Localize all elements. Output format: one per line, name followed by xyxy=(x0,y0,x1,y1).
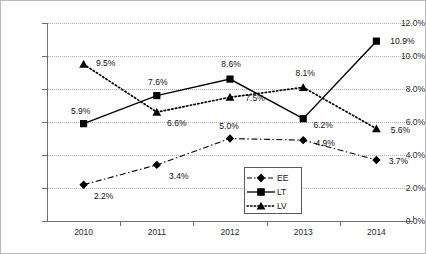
y-tick-mark xyxy=(42,188,47,189)
x-axis-end-cap xyxy=(47,216,48,221)
y-tick-mark xyxy=(42,122,47,123)
data-label-lt-2012: 8.6% xyxy=(221,59,240,69)
y-tick-label: 8.0% xyxy=(381,84,425,94)
gridline xyxy=(47,89,413,90)
data-label-lt-2010: 5.9% xyxy=(71,106,90,116)
legend-item-ee[interactable]: EE xyxy=(245,171,301,185)
data-label-ee-2012: 5.0% xyxy=(219,121,238,131)
legend-swatch-ee xyxy=(245,171,277,185)
data-label-lt-2011: 7.6% xyxy=(148,77,167,87)
gridline xyxy=(47,188,413,189)
data-label-lt-2014: 10.9% xyxy=(390,36,414,46)
y-tick-mark xyxy=(42,56,47,57)
x-tick-mark xyxy=(340,221,341,226)
x-tick-mark xyxy=(193,221,194,226)
y-tick-label: 0.0% xyxy=(381,216,425,226)
data-label-ee-2011: 3.4% xyxy=(169,171,188,181)
legend-item-lv[interactable]: LV xyxy=(245,199,301,213)
data-label-lv-2010: 9.5% xyxy=(96,58,115,68)
x-tick-mark xyxy=(267,221,268,226)
y-axis-line xyxy=(47,23,48,221)
y-tick-mark xyxy=(42,155,47,156)
x-axis-end-cap xyxy=(413,216,414,221)
data-label-lv-2013: 8.1% xyxy=(296,68,315,78)
data-label-lv-2012: 7.5% xyxy=(245,93,264,103)
x-tick-label: 2013 xyxy=(268,227,338,237)
data-label-lv-2011: 6.6% xyxy=(167,118,186,128)
y-tick-mark xyxy=(42,89,47,90)
x-tick-mark xyxy=(120,221,121,226)
line-chart: 0.0%2.0%4.0%6.0%8.0%10.0%12.0% 201020112… xyxy=(0,0,426,254)
gridline xyxy=(47,155,413,156)
data-label-ee-2013: 4.9% xyxy=(316,138,335,148)
y-tick-label: 10.0% xyxy=(381,51,425,61)
gridline xyxy=(47,23,413,24)
x-tick-label: 2010 xyxy=(49,227,119,237)
y-tick-mark xyxy=(42,221,47,222)
gridline xyxy=(47,56,413,57)
x-tick-label: 2012 xyxy=(195,227,265,237)
y-tick-label: 12.0% xyxy=(381,18,425,28)
legend-label-lv: LV xyxy=(277,199,287,213)
data-label-lv-2014: 5.6% xyxy=(391,125,410,135)
legend-label-lt: LT xyxy=(277,185,286,199)
legend-swatch-lv xyxy=(245,199,277,213)
y-tick-label: 2.0% xyxy=(381,183,425,193)
legend-item-lt[interactable]: LT xyxy=(245,185,301,199)
x-axis-line xyxy=(47,221,413,222)
y-tick-mark xyxy=(42,23,47,24)
legend-swatch-lt xyxy=(245,185,277,199)
data-label-lt-2013: 6.2% xyxy=(314,120,333,130)
data-label-ee-2014: 3.7% xyxy=(389,156,408,166)
legend-label-ee: EE xyxy=(277,171,288,185)
x-tick-label: 2014 xyxy=(341,227,411,237)
legend[interactable]: EE LT LV xyxy=(244,167,302,214)
x-tick-label: 2011 xyxy=(122,227,192,237)
data-label-ee-2010: 2.2% xyxy=(94,191,113,201)
